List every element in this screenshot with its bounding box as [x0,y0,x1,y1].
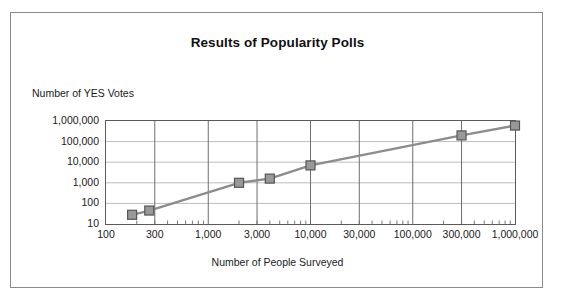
data-point-marker [457,131,466,140]
figure-frame: Results of Popularity Polls Number of YE… [10,12,543,288]
x-tick-label: 10,000 [294,229,326,240]
chart-title: Results of Popularity Polls [11,35,544,50]
x-tick-label: 1,000 [195,229,221,240]
x-axis-tick-labels: 1003001,0003,00010,00030,000100,000300,0… [105,229,516,245]
data-point-marker [265,174,274,183]
data-point-marker [128,210,137,219]
x-tick-label: 100,000 [394,229,432,240]
x-tick-label: 30,000 [343,229,375,240]
y-tick-label: 100 [81,197,99,208]
x-tick-label: 1,000,000 [492,229,539,240]
series-markers [128,121,520,219]
x-tick-label: 300 [146,229,164,240]
minor-gridlines-x [137,221,511,225]
x-tick-label: 3,000 [244,229,270,240]
y-axis-tick-labels: 101001,00010,000100,0001,000,000 [11,120,99,223]
x-tick-label: 100 [97,229,115,240]
data-point-marker [235,178,244,187]
data-point-marker [306,161,315,170]
x-tick-label: 300,000 [443,229,481,240]
plot-area [105,120,516,225]
data-point-marker [145,206,154,215]
y-axis-title: Number of YES Votes [32,87,134,99]
y-tick-label: 1,000,000 [52,115,99,126]
y-tick-label: 100,000 [61,135,99,146]
plot-canvas [106,121,515,224]
y-tick-label: 1,000 [73,177,99,188]
data-point-marker [511,121,520,130]
y-tick-label: 10 [87,218,99,229]
y-tick-label: 10,000 [67,156,99,167]
major-gridlines-x [155,121,462,224]
x-axis-title: Number of People Surveyed [11,256,544,268]
